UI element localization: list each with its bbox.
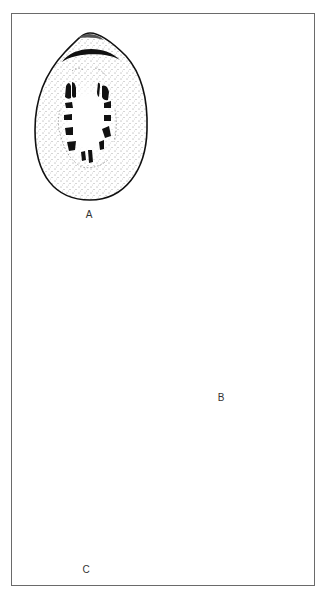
panel-label-b: B	[218, 392, 225, 403]
panel-label-c: C	[82, 564, 89, 575]
illustration-canvas	[0, 0, 326, 602]
shell-a	[35, 33, 147, 200]
panel-label-a: A	[86, 209, 93, 220]
